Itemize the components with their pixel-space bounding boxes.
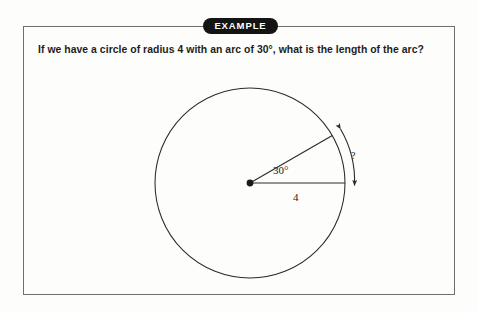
radius-length-label: 4 bbox=[293, 191, 299, 203]
angle-label: 30° bbox=[273, 164, 288, 176]
arc-length-label: ? bbox=[351, 150, 356, 161]
question-prompt-text: If we have a circle of radius 4 with an … bbox=[38, 42, 438, 58]
circle-center-dot bbox=[247, 180, 254, 187]
scan-page: EXAMPLE If we have a circle of radius 4 … bbox=[0, 0, 478, 313]
example-badge: EXAMPLE bbox=[203, 18, 278, 34]
upper-radius-line bbox=[250, 136, 332, 184]
circle-arc-diagram: 30° 4 ? bbox=[140, 78, 370, 290]
